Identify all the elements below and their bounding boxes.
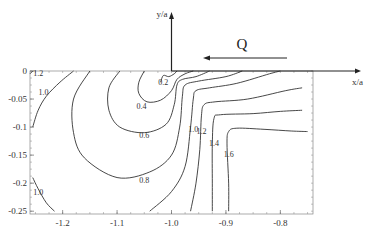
plot-frame	[30, 71, 313, 214]
x-tick-label: -1.0	[164, 218, 179, 228]
contour-label: 0.2	[158, 78, 168, 87]
x-axis-arrowhead-icon	[355, 69, 361, 74]
contour-label: 1.4	[209, 139, 219, 148]
contour-label: 1.6	[224, 150, 234, 159]
y-tick-label: 0	[23, 66, 28, 76]
y-axis-title: y/a	[157, 9, 168, 19]
contour-label: 1.0	[33, 188, 43, 197]
coordinate-axes: y/ax/aQ	[157, 9, 364, 87]
contour-label: 0.8	[139, 176, 149, 185]
contour-chart: -1.2-1.1-1.0-0.9-0.8 0-0.05-0.1-0.15-0.2…	[0, 0, 369, 240]
contour-lines	[30, 71, 308, 211]
contour-label: 1.2	[33, 69, 43, 78]
contour-line-1_6	[227, 128, 308, 211]
contour-line-1_0	[33, 71, 74, 127]
x-tick-label: -1.1	[110, 218, 124, 228]
q-arrow-left-icon	[203, 56, 210, 61]
q-annotation: Q	[237, 36, 248, 52]
x-tick-label: -1.2	[56, 218, 70, 228]
x-tick-label: -0.8	[273, 218, 288, 228]
contour-label: 0.6	[139, 131, 149, 140]
contour-label: 1.2	[196, 127, 206, 136]
contour-line-1_4	[212, 110, 302, 211]
plot-border	[30, 71, 313, 214]
contour-label: 1.0	[39, 88, 49, 97]
y-tick-label: -0.25	[8, 206, 27, 216]
y-tick-label: -0.1	[13, 122, 27, 132]
contour-label: 0.4	[137, 102, 147, 111]
x-axis-title: x/a	[352, 77, 363, 87]
y-tick-label: -0.05	[8, 94, 27, 104]
y-tick-label: -0.15	[8, 150, 27, 160]
x-tick-label: -0.9	[219, 218, 234, 228]
x-ticks: -1.2-1.1-1.0-0.9-0.8	[35, 71, 307, 228]
y-axis-arrowhead-icon	[169, 12, 174, 19]
y-tick-label: -0.2	[13, 178, 27, 188]
contour-line-1_2	[191, 88, 303, 211]
